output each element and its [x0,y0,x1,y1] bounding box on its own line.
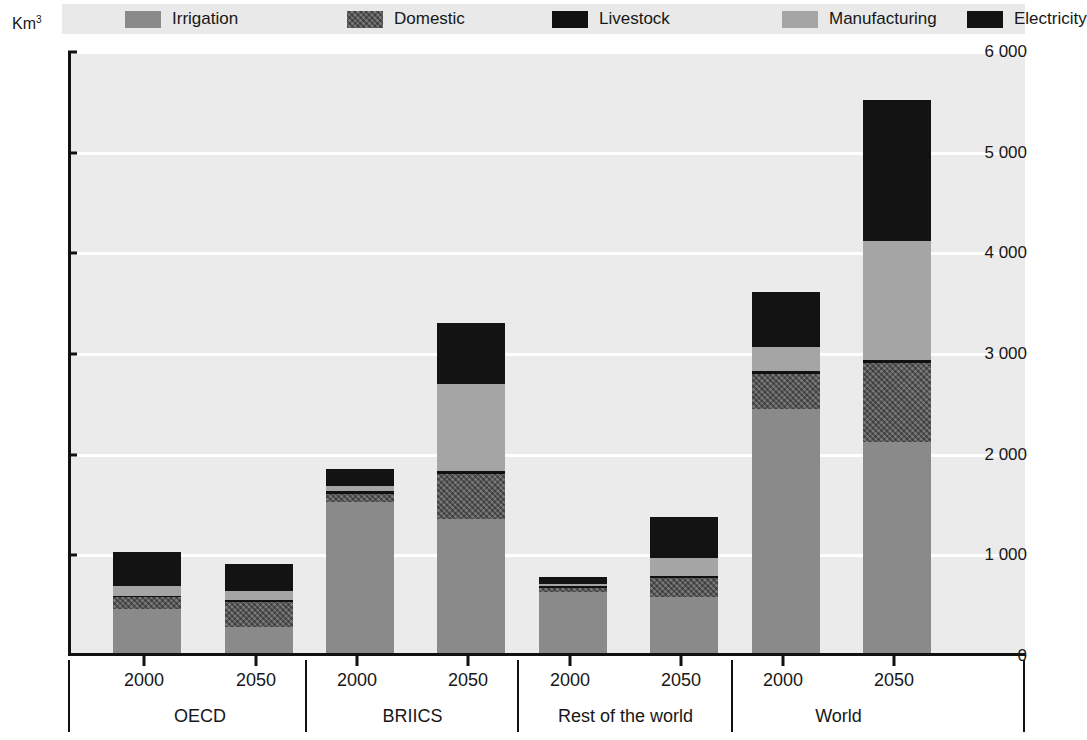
x-axis-year-label-0: 2000 [124,670,164,691]
y-axis-unit-label: Km3 [12,14,42,33]
plot-area [68,52,1025,656]
legend-label-electricity: Electricity [1014,9,1087,29]
y-axis-tick-5000 [68,151,77,154]
bar-segment-manufacturing [650,558,718,576]
legend-item-irrigation[interactable]: Irrigation [125,4,238,34]
legend-item-domestic[interactable]: Domestic [347,4,465,34]
y-axis-unit-exponent: 3 [36,14,42,25]
bar-segment-livestock [863,360,931,363]
bar-segment-electricity [113,552,181,585]
x-axis-tick-1 [255,656,258,666]
x-axis-year-label-6: 2000 [763,670,803,691]
x-axis-group-label-briics: BRIICS [382,706,442,727]
bar-segment-manufacturing [539,584,607,586]
x-axis-group-label-rest-of-the-world: Rest of the world [558,706,693,727]
y-axis-tick-1000 [68,554,77,557]
bar-briics-2050[interactable] [437,323,505,653]
x-axis-year-label-4: 2000 [550,670,590,691]
bar-segment-electricity [650,517,718,558]
bar-oecd-2000[interactable] [113,552,181,653]
legend-label-domestic: Domestic [394,9,465,29]
bar-segment-domestic [863,363,931,442]
x-axis-year-label-7: 2050 [874,670,914,691]
bar-segment-irrigation [437,519,505,653]
y-axis-tick-3000 [68,353,77,356]
legend-swatch-electricity-icon [967,11,1003,28]
bar-briics-2000[interactable] [326,469,394,653]
bar-segment-manufacturing [113,586,181,596]
x-axis-group-separator-0 [305,660,307,732]
bar-segment-livestock [113,596,181,598]
legend-label-livestock: Livestock [599,9,670,29]
bar-segment-livestock [752,371,820,374]
bar-segment-livestock [437,471,505,474]
y-axis-tick-label-4000: 4 000 [969,243,1027,263]
bar-segment-irrigation [650,597,718,653]
bar-segment-electricity [752,292,820,347]
x-axis-left-edge [68,660,70,732]
x-axis-group-label-oecd: OECD [174,706,226,727]
bar-world-2000[interactable] [752,292,820,653]
gridline-6000 [71,51,1025,54]
bar-segment-domestic [539,588,607,592]
bar-segment-irrigation [225,627,293,653]
y-axis-tick-label-3000: 3 000 [969,344,1027,364]
x-axis-year-label-3: 2050 [448,670,488,691]
x-axis-group-separator-2 [731,660,733,732]
x-axis-year-label-1: 2050 [236,670,276,691]
y-axis-unit-base: Km [12,15,36,32]
bar-rest-of-the-world-2000[interactable] [539,577,607,653]
legend-item-manufacturing[interactable]: Manufacturing [782,4,937,34]
bar-segment-electricity [863,100,931,241]
legend-swatch-livestock-icon [552,11,588,28]
x-axis-right-edge [1023,660,1025,732]
x-axis-tick-6 [782,656,785,666]
bar-segment-irrigation [539,592,607,653]
bar-segment-irrigation [863,442,931,653]
x-axis-tick-0 [143,656,146,666]
bar-segment-livestock [326,491,394,494]
x-axis-group-separator-1 [517,660,519,732]
x-axis-tick-2 [356,656,359,666]
y-axis-tick-label-2000: 2 000 [969,445,1027,465]
legend-label-manufacturing: Manufacturing [829,9,937,29]
bar-segment-irrigation [113,609,181,653]
x-axis-year-label-2: 2000 [337,670,377,691]
legend-swatch-irrigation-icon [125,11,161,28]
bar-segment-electricity [326,469,394,486]
bar-oecd-2050[interactable] [225,564,293,653]
bar-segment-livestock [225,600,293,602]
bar-segment-livestock [650,576,718,578]
bar-segment-manufacturing [225,591,293,601]
y-axis-tick-label-6000: 6 000 [969,42,1027,62]
legend-swatch-domestic-icon [347,11,383,28]
y-axis-tick-2000 [68,453,77,456]
x-axis-tick-4 [569,656,572,666]
bar-segment-irrigation [326,502,394,653]
bar-segment-domestic [113,597,181,609]
bar-segment-manufacturing [752,347,820,371]
bar-world-2050[interactable] [863,100,931,653]
y-axis-tick-label-5000: 5 000 [969,143,1027,163]
x-axis: 20002050200020502000205020002050OECDBRII… [68,656,1025,740]
bar-segment-electricity [539,577,607,584]
x-axis-tick-7 [893,656,896,666]
bar-segment-domestic [437,474,505,519]
y-axis-tick-4000 [68,252,77,255]
bar-segment-domestic [326,494,394,502]
bar-segment-manufacturing [863,241,931,360]
y-axis-tick-6000 [68,51,77,54]
legend-item-livestock[interactable]: Livestock [552,4,670,34]
bar-segment-electricity [225,564,293,591]
bar-segment-livestock [539,586,607,588]
bar-segment-domestic [225,602,293,627]
bar-rest-of-the-world-2050[interactable] [650,517,718,653]
x-axis-group-label-world: World [815,706,862,727]
legend-item-electricity[interactable]: Electricity [967,4,1087,34]
x-axis-year-label-5: 2050 [661,670,701,691]
legend-swatch-manufacturing-icon [782,11,818,28]
bar-segment-manufacturing [326,486,394,492]
x-axis-tick-5 [680,656,683,666]
bar-segment-manufacturing [437,384,505,471]
